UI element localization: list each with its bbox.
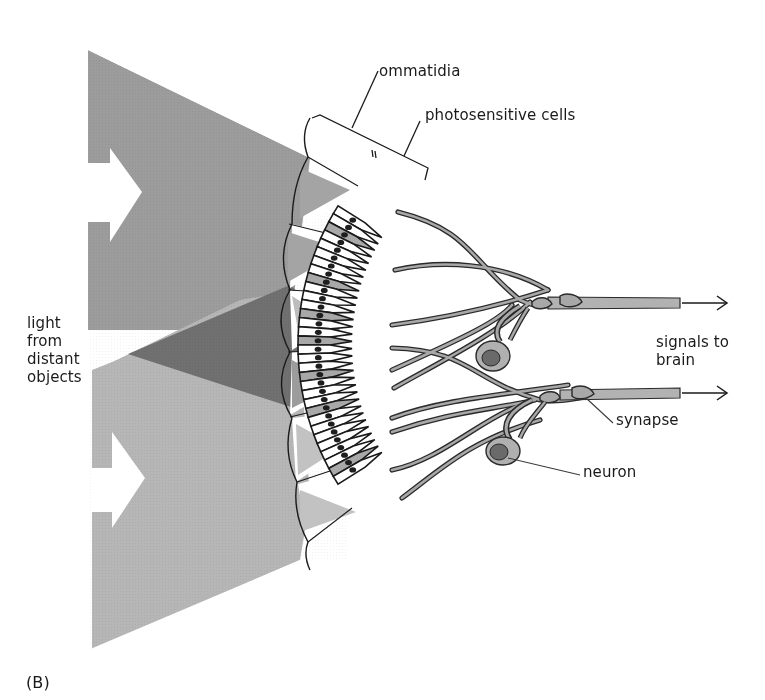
cell-nucleus	[316, 313, 323, 318]
ommatidia-leader	[352, 71, 378, 128]
neuron-label: neuron	[583, 463, 636, 481]
neuron-upper	[476, 294, 680, 371]
cell-nucleus	[341, 453, 348, 458]
cell-nucleus	[318, 304, 325, 309]
cell-nucleus	[345, 460, 352, 465]
cell-nucleus	[315, 355, 322, 360]
cell-nucleus	[334, 248, 341, 253]
cell-nucleus	[315, 338, 322, 343]
cell-nucleus	[319, 296, 326, 301]
cell-nucleus	[321, 397, 328, 402]
cell-nucleus	[341, 232, 348, 237]
cell-nucleus	[328, 421, 335, 426]
lower-output-arrow	[682, 386, 727, 400]
neuron-nucleus-upper	[482, 350, 500, 366]
cell-nucleus	[316, 372, 323, 377]
light-source-label: light from distant objects	[27, 314, 82, 386]
photosensitive-cells-label: photosensitive cells	[425, 106, 575, 124]
cell-nucleus	[337, 445, 344, 450]
ommatidia-label: ommatidia	[379, 62, 460, 80]
photosensitive-leader	[404, 121, 420, 156]
signals-to-brain-label: signals to brain	[656, 333, 729, 369]
cell-nucleus	[321, 288, 328, 293]
cell-nucleus	[349, 217, 356, 222]
cell-nucleus	[315, 330, 322, 335]
cell-nucleus	[325, 413, 332, 418]
synapse-leader	[586, 398, 613, 423]
cell-nucleus	[328, 263, 335, 268]
cell-nucleus	[323, 405, 330, 410]
neuron-leader	[508, 458, 580, 475]
cell-nucleus	[331, 429, 338, 434]
upper-output-arrow	[682, 296, 727, 310]
cell-nucleus	[318, 380, 325, 385]
cell-nucleus	[319, 389, 326, 394]
cell-nucleus	[349, 467, 356, 472]
panel-label: (B)	[26, 674, 50, 692]
compound-eye-diagram	[0, 0, 765, 700]
cell-nucleus	[334, 437, 341, 442]
cell-nucleus	[337, 240, 344, 245]
cell-nucleus	[323, 280, 330, 285]
cell-nucleus	[316, 321, 323, 326]
cell-nucleus	[316, 364, 323, 369]
cell-nucleus	[315, 347, 322, 352]
neuron-nucleus-lower	[490, 444, 508, 460]
synapse-label: synapse	[616, 411, 679, 429]
cell-nucleus	[331, 255, 338, 260]
cell-nucleus	[345, 225, 352, 230]
cell-nucleus	[325, 271, 332, 276]
